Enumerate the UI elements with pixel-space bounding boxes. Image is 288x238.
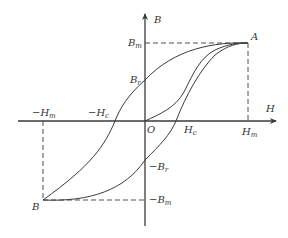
h-axis-label: H: [265, 103, 275, 114]
bm-label: Bm: [127, 37, 142, 50]
point-a-label: A: [250, 31, 258, 42]
br-label: Br: [129, 74, 141, 87]
origin-label: O: [147, 124, 155, 135]
point-b-label: B: [31, 201, 39, 212]
diagram-canvas: B H O A B Bm Br −Br −Bm −Hm −Hc Hc Hm: [0, 0, 288, 238]
hysteresis-diagram: B H O A B Bm Br −Br −Bm −Hm −Hc Hc Hm: [0, 0, 288, 238]
initial-magnetization-curve: [145, 43, 248, 121]
b-axis-label: B: [153, 14, 161, 25]
neg-hm-label: −Hm: [32, 107, 56, 120]
neg-br-label: −Br: [149, 161, 169, 174]
neg-hc-label: −Hc: [88, 107, 109, 120]
neg-bm-label: −Bm: [149, 194, 172, 207]
hc-label: Hc: [183, 124, 197, 137]
hm-label: Hm: [241, 126, 258, 139]
